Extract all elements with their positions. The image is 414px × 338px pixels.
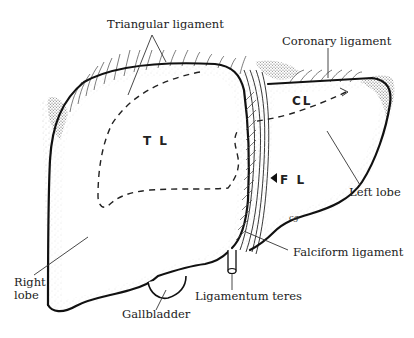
left-lobe xyxy=(250,78,393,250)
liver-diagram: cg T L CL F L Triangular ligament Corona… xyxy=(0,0,414,338)
ligamentum-teres-cord xyxy=(228,250,236,274)
region-label-fl: F L xyxy=(280,173,306,187)
label-triangular-ligament: Triangular ligament xyxy=(107,17,224,31)
label-right-lobe-line2: lobe xyxy=(14,288,39,302)
diaphragm-shading-center xyxy=(255,60,300,79)
label-gallbladder: Gallbladder xyxy=(122,307,191,321)
label-coronary-ligament: Coronary ligament xyxy=(282,34,392,48)
label-ligamentum-teres: Ligamentum teres xyxy=(195,289,302,303)
artist-signature: cg xyxy=(289,213,299,222)
label-right-lobe-line1: Right xyxy=(14,275,46,289)
label-falciform-ligament: Falciform ligament xyxy=(293,245,404,259)
right-lobe xyxy=(48,63,249,311)
label-left-lobe: Left lobe xyxy=(349,185,401,199)
region-label-cl: CL xyxy=(292,94,312,108)
region-label-tl: T L xyxy=(143,134,169,148)
